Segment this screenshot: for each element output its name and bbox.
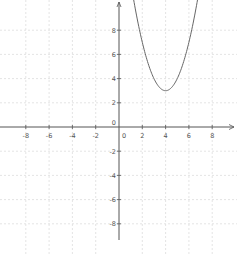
y-origin-label: 0: [112, 119, 116, 127]
x-tick-label: 6: [187, 132, 191, 140]
y-tick-label: 2: [112, 99, 116, 107]
x-origin-label: 0: [122, 132, 126, 140]
x-tick-label: -6: [46, 132, 52, 140]
x-tick-label: 4: [164, 132, 168, 140]
y-tick-label: 6: [112, 51, 116, 59]
y-tick-label: -2: [110, 148, 116, 156]
x-tick-label: 2: [140, 132, 144, 140]
y-tick-label: 8: [112, 27, 116, 35]
x-tick-label: -4: [69, 132, 75, 140]
y-tick-label: 4: [112, 75, 116, 83]
y-tick-label: -8: [110, 220, 116, 228]
y-tick-label: -4: [110, 172, 116, 180]
x-tick-label: -8: [23, 132, 29, 140]
x-tick-label: -2: [92, 132, 98, 140]
x-tick-label: 8: [210, 132, 214, 140]
y-tick-label: -6: [110, 196, 116, 204]
function-plot: -8-6-4-22468-8-6-4-2246800: [0, 0, 237, 255]
axes: [0, 2, 234, 240]
